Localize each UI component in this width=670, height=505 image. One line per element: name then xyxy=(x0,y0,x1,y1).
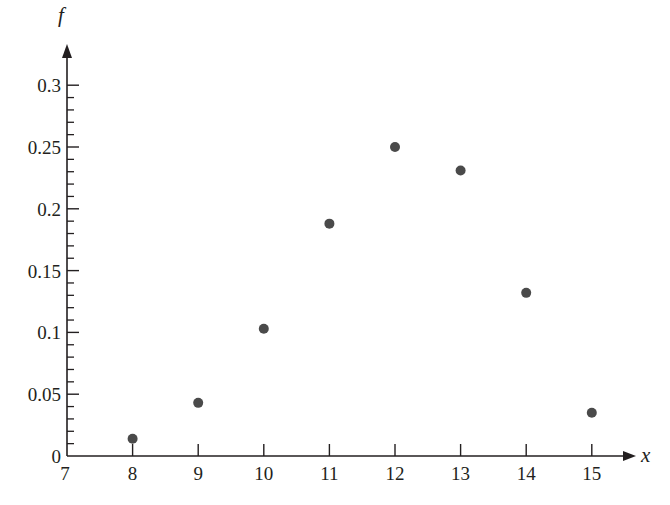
x-tick-label: 14 xyxy=(517,463,537,484)
x-tick-label: 13 xyxy=(451,463,470,484)
data-point xyxy=(324,219,334,229)
scatter-plot: 00.050.10.150.20.250.3 789101112131415 f… xyxy=(0,0,670,505)
y-tick-label: 0.2 xyxy=(37,199,61,220)
data-point xyxy=(587,408,597,418)
x-tick-label: 9 xyxy=(193,463,203,484)
y-tick-label: 0.3 xyxy=(37,75,61,96)
x-tick-label: 7 xyxy=(60,463,70,484)
y-axis: 00.050.10.150.20.250.3 xyxy=(28,44,79,467)
x-tick-label: 12 xyxy=(386,463,405,484)
y-axis-title: f xyxy=(58,3,67,27)
y-axis-arrow-icon xyxy=(62,44,72,58)
x-tick-label: 8 xyxy=(128,463,138,484)
data-point xyxy=(521,288,531,298)
x-tick-label: 15 xyxy=(582,463,601,484)
data-point xyxy=(128,434,138,444)
x-axis: 789101112131415 xyxy=(60,444,636,484)
data-point xyxy=(456,165,466,175)
data-points xyxy=(128,142,597,444)
x-tick-label: 11 xyxy=(320,463,338,484)
x-axis-title: x xyxy=(640,443,651,467)
data-point xyxy=(193,398,203,408)
y-tick-label: 0.25 xyxy=(28,137,61,158)
x-axis-arrow-icon xyxy=(623,451,636,461)
chart: 00.050.10.150.20.250.3 789101112131415 f… xyxy=(0,0,670,505)
x-tick-label: 10 xyxy=(254,463,273,484)
y-tick-label: 0.05 xyxy=(28,384,61,405)
data-point xyxy=(259,324,269,334)
y-tick-label: 0.1 xyxy=(37,322,61,343)
data-point xyxy=(390,142,400,152)
y-tick-label: 0.15 xyxy=(28,261,61,282)
